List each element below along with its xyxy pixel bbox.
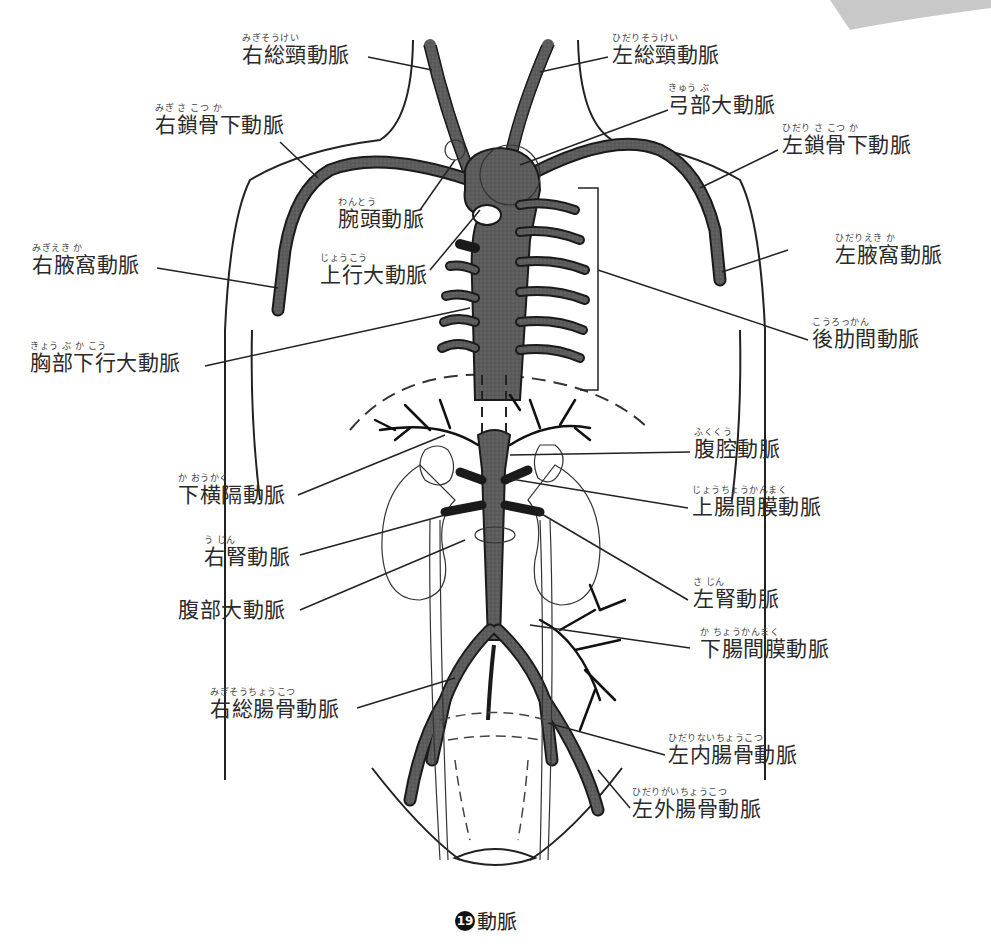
label-left-axillary: ひだりえき か 左腋窩動脈 [835,234,943,266]
label-right-renal: う じん 右腎動脈 [204,536,290,568]
figure-caption: 19 動脈 [455,906,517,935]
label-abdominal-aorta: 腹部大動脈 [178,600,286,621]
label-brachiocephalic: わんとう 腕頭動脈 [338,198,424,230]
label-left-subclavian: ひだり さ こつ か 左鎖骨下動脈 [782,124,911,156]
page-shadow [830,0,991,30]
label-right-common-iliac: みぎそうちょうこつ 右総腸骨動脈 [210,688,339,720]
label-inferior-mesenteric: か ちょうかんまく 下腸間膜動脈 [700,628,829,660]
label-left-renal: さ じん 左腎動脈 [693,578,779,610]
label-descending-thoracic-aorta: きょう ぶ か こう 胸部下行大動脈 [30,342,181,374]
label-celiac: ふくくう 腹腔動脈 [694,428,780,460]
figure-title: 動脈 [477,906,517,935]
label-posterior-intercostal: こうろっかん 後肋間動脈 [812,318,920,350]
label-left-internal-iliac: ひだりないちょうこつ 左内腸骨動脈 [668,734,797,766]
figure-number-badge: 19 [455,911,475,931]
label-inferior-phrenic: か おうかく 下横隔動脈 [178,474,286,506]
label-right-subclavian: みぎ さ こつ か 右鎖骨下動脈 [155,104,284,136]
label-right-axillary: みぎえき か 右腋窩動脈 [32,244,140,276]
label-aortic-arch: きゅう ぶ 弓部大動脈 [668,84,776,116]
label-left-common-carotid: ひだりそうけい 左総頸動脈 [612,34,720,66]
label-superior-mesenteric: じょうちょうかんまく 上腸間膜動脈 [692,486,821,518]
label-right-common-carotid: みぎそうけい 右総頸動脈 [242,34,350,66]
bladder-outline [440,713,545,841]
label-left-external-iliac: ひだりがいちょうこつ 左外腸骨動脈 [632,788,761,820]
label-ascending-aorta: じょうこう 上行大動脈 [320,254,428,286]
abdominal-aorta [478,430,510,640]
